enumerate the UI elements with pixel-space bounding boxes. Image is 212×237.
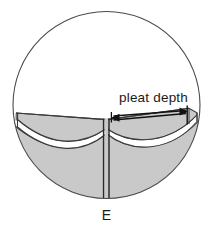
- figure-canvas: pleat depth E: [0, 0, 212, 237]
- pleat-depth-label: pleat depth: [119, 90, 188, 105]
- center-fold-face: [105, 119, 108, 201]
- element-label-e: E: [102, 207, 111, 223]
- pleat-depth-diagram: pleat depth E: [0, 0, 212, 237]
